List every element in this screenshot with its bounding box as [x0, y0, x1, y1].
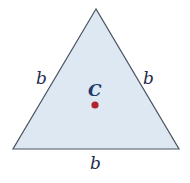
- triangle-diagram: b b b C: [0, 0, 190, 183]
- center-point: [91, 101, 98, 108]
- bottom-side-label: b: [90, 153, 101, 173]
- right-side-label: b: [143, 68, 154, 88]
- left-side-label: b: [36, 68, 47, 88]
- center-label: C: [88, 80, 102, 100]
